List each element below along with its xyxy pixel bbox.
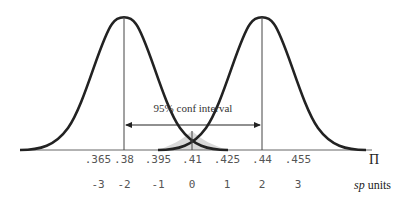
sd-tick-label: 1 <box>224 178 231 191</box>
units-word: units <box>365 178 391 192</box>
sp-symbol: sp <box>354 178 365 192</box>
x-tick-label: .38 <box>114 153 134 166</box>
pi-axis-label: Π <box>369 152 379 168</box>
sd-tick-label: -1 <box>151 178 164 191</box>
ci-arrow-left-head <box>125 122 132 128</box>
sd-tick-label: 3 <box>295 178 302 191</box>
x-tick-label: .425 <box>214 153 241 166</box>
x-tick-label: .455 <box>285 153 312 166</box>
x-tick-label: .44 <box>252 153 272 166</box>
x-tick-label: .41 <box>182 153 202 166</box>
sd-units-label: sp units <box>354 178 391 193</box>
sd-tick-label: -3 <box>91 178 104 191</box>
x-tick-label: .365 <box>85 153 112 166</box>
x-tick-label: .395 <box>145 153 172 166</box>
sd-tick-label: -2 <box>117 178 130 191</box>
sd-tick-label: 0 <box>189 178 196 191</box>
ci-label: 95% conf interval <box>154 102 233 114</box>
diagram-canvas: 95% conf interval .365 .38 .395 .41 .425… <box>0 0 412 203</box>
sd-tick-label: 2 <box>259 178 266 191</box>
ci-arrow-right-head <box>254 122 261 128</box>
